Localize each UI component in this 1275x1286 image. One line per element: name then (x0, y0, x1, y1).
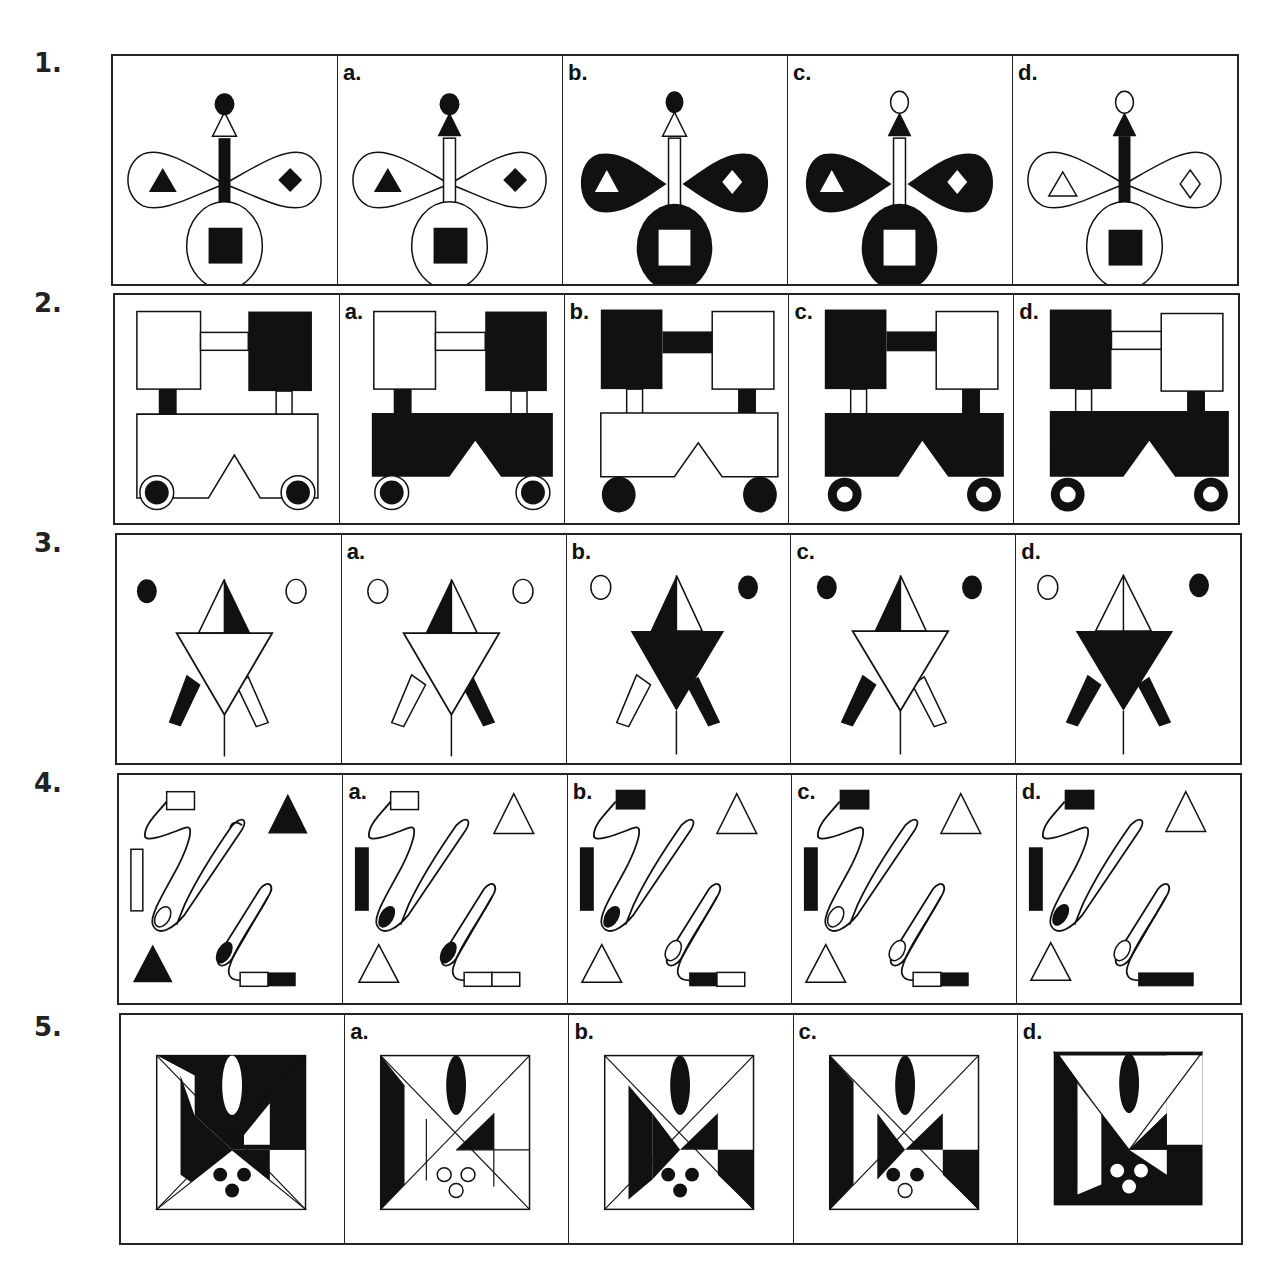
q1-stem (113, 56, 338, 284)
question-number-4: 4. (34, 768, 62, 798)
kite-figure-icon (791, 535, 1015, 763)
square-pattern-figure-icon (121, 1015, 344, 1243)
serpentine-figure-icon (1017, 775, 1240, 1003)
serpentine-figure-icon (568, 775, 791, 1003)
cart-figure-icon (789, 295, 1013, 523)
q1-option-c[interactable]: c. (788, 56, 1013, 284)
q5-option-c[interactable]: c. (794, 1015, 1018, 1243)
butterfly-figure-icon (338, 56, 562, 284)
q2-option-c[interactable]: c. (789, 295, 1014, 523)
serpentine-figure-icon (119, 775, 342, 1003)
question-4-row: a. b. (117, 773, 1242, 1005)
cart-figure-icon (1014, 295, 1238, 523)
square-pattern-figure-icon (794, 1015, 1017, 1243)
q4-option-a[interactable]: a. (343, 775, 567, 1003)
kite-figure-icon (117, 535, 341, 763)
q3-option-b[interactable]: b. (567, 535, 792, 763)
kite-figure-icon (1016, 535, 1240, 763)
q4-stem (119, 775, 343, 1003)
cart-figure-icon (565, 295, 789, 523)
serpentine-figure-icon (343, 775, 566, 1003)
butterfly-figure-icon (788, 56, 1012, 284)
question-number-1: 1. (34, 48, 62, 78)
q2-option-a[interactable]: a. (340, 295, 565, 523)
q2-option-b[interactable]: b. (565, 295, 790, 523)
q4-option-c[interactable]: c. (792, 775, 1016, 1003)
q3-option-a[interactable]: a. (342, 535, 567, 763)
cart-figure-icon (340, 295, 564, 523)
q5-stem (121, 1015, 345, 1243)
q5-option-a[interactable]: a. (345, 1015, 569, 1243)
q3-option-d[interactable]: d. (1016, 535, 1240, 763)
q2-stem (115, 295, 340, 523)
question-number-5: 5. (34, 1012, 62, 1042)
q4-option-b[interactable]: b. (568, 775, 792, 1003)
question-5-row: a. b. (119, 1013, 1243, 1245)
question-1-row: a. b. c. (111, 54, 1239, 286)
kite-figure-icon (342, 535, 566, 763)
butterfly-figure-icon (1013, 56, 1237, 284)
q3-stem (117, 535, 342, 763)
question-2-row: a. b. c. (113, 293, 1240, 525)
kite-figure-icon (567, 535, 791, 763)
q1-option-b[interactable]: b. (563, 56, 788, 284)
q1-option-a[interactable]: a. (338, 56, 563, 284)
q1-option-d[interactable]: d. (1013, 56, 1237, 284)
q5-option-d[interactable]: d. (1018, 1015, 1241, 1243)
q4-option-d[interactable]: d. (1017, 775, 1240, 1003)
butterfly-figure-icon (113, 56, 337, 284)
q5-option-b[interactable]: b. (569, 1015, 793, 1243)
serpentine-figure-icon (792, 775, 1015, 1003)
cart-figure-icon (115, 295, 339, 523)
question-number-2: 2. (34, 288, 62, 318)
q2-option-d[interactable]: d. (1014, 295, 1238, 523)
butterfly-figure-icon (563, 56, 787, 284)
square-pattern-figure-icon (569, 1015, 792, 1243)
question-3-row: a. b. c. (115, 533, 1242, 765)
question-number-3: 3. (34, 528, 62, 558)
square-pattern-figure-icon (1018, 1015, 1241, 1243)
square-pattern-figure-icon (345, 1015, 568, 1243)
q3-option-c[interactable]: c. (791, 535, 1016, 763)
